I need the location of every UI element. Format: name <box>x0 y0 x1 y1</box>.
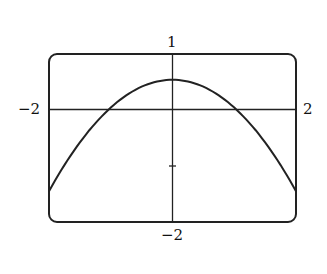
y-max-label: 1 <box>167 35 177 50</box>
y-min-label: −2 <box>161 228 183 243</box>
x-max-label: 2 <box>303 102 313 117</box>
x-min-label: −2 <box>18 102 40 117</box>
